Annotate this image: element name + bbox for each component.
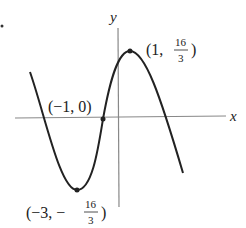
x-axis-label: x (229, 108, 237, 124)
svg-text:): ) (191, 41, 196, 59)
local-min-label: (−3, − 16 3 ) (26, 198, 106, 226)
svg-text:(−3, −: (−3, − (26, 204, 65, 222)
y-axis-label: y (108, 9, 117, 25)
cubic-curve (30, 51, 183, 190)
function-graph: x y (1, 16 3 ) (−1, 0) (−3, − 16 3 ) (0, 0, 246, 228)
svg-text:): ) (101, 204, 106, 222)
svg-text:16: 16 (175, 36, 187, 48)
local-max-point (128, 49, 133, 54)
x-intercept-point (101, 117, 106, 122)
local-max-label: (1, 16 3 ) (146, 36, 196, 64)
svg-text:16: 16 (85, 198, 97, 210)
stray-dot (1, 25, 4, 28)
svg-text:3: 3 (178, 52, 184, 64)
y-axis (118, 28, 119, 207)
local-min-point (75, 188, 80, 193)
x-intercept-label: (−1, 0) (48, 98, 92, 116)
x-axis (15, 116, 226, 118)
svg-text:(1,: (1, (146, 41, 163, 59)
svg-text:3: 3 (88, 214, 94, 226)
